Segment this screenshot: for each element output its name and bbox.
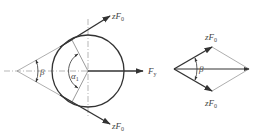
radial-line-upper [72,40,88,71]
beta-label-right: β [198,64,204,74]
upper-force-label: zF0 [111,11,124,22]
parallelogram-side-upper [212,47,249,69]
lower-force-label: zF0 [111,121,124,132]
lower-force-vector [174,69,212,91]
upper-force-vector [174,47,212,69]
radial-force-label: Fy [147,66,157,77]
beta-label: β [39,67,45,77]
upper-tension-arrow [60,16,110,47]
lower-force-label-right: zF0 [204,98,217,109]
pulley-figure: zF0 zF0 Fy α1 β [4,11,157,132]
force-parallelogram: zF0 zF0 β [174,32,249,109]
lower-tension-arrow [60,95,110,124]
parallelogram-side-lower [212,69,249,91]
belt-force-diagram: zF0 zF0 Fy α1 β zF0 zF0 β [0,0,259,139]
upper-force-label-right: zF0 [204,32,217,43]
alpha-label: α1 [71,71,79,82]
